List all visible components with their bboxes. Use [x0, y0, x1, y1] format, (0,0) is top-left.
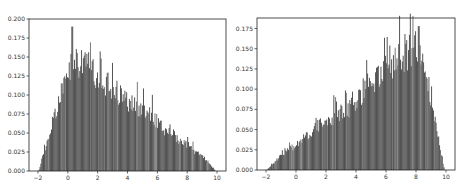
x-tick-label: 8 — [185, 174, 189, 181]
x-tick-label: −2 — [34, 174, 43, 181]
x-tick-label: 4 — [354, 173, 358, 180]
histogram-left-svg: −202468100.0000.0250.0500.0750.1000.1250… — [0, 0, 232, 188]
y-tick-label: 0.075 — [236, 105, 253, 112]
x-tick-label: −2 — [262, 173, 271, 180]
histogram-left: −202468100.0000.0250.0500.0750.1000.1250… — [0, 0, 232, 188]
x-tick-label: 8 — [414, 173, 418, 180]
histogram-bars — [39, 27, 216, 171]
y-tick-label: 0.075 — [8, 110, 25, 117]
histogram-right-svg: −202468100.0000.0250.0500.0750.1000.1250… — [232, 0, 464, 188]
x-tick-label: 4 — [126, 174, 130, 181]
x-tick-label: 2 — [96, 174, 100, 181]
y-tick-label: 0.000 — [236, 166, 253, 173]
y-tick-label: 0.175 — [236, 25, 253, 32]
y-tick-label: 0.175 — [8, 34, 25, 41]
y-tick-label: 0.200 — [8, 15, 25, 22]
x-tick-label: 6 — [384, 173, 388, 180]
y-tick-label: 0.100 — [8, 91, 25, 98]
y-tick-label: 0.125 — [8, 72, 25, 79]
y-tick-label: 0.025 — [8, 148, 25, 155]
x-tick-label: 2 — [324, 173, 328, 180]
x-tick-label: 10 — [442, 173, 450, 180]
y-tick-label: 0.100 — [236, 85, 253, 92]
y-tick-label: 0.050 — [236, 126, 253, 133]
y-tick-label: 0.025 — [236, 146, 253, 153]
y-tick-label: 0.150 — [236, 45, 253, 52]
x-tick-label: 6 — [155, 174, 159, 181]
y-tick-label: 0.125 — [236, 65, 253, 72]
x-tick-label: 0 — [294, 173, 298, 180]
x-tick-label: 10 — [213, 174, 221, 181]
y-tick-label: 0.000 — [8, 167, 25, 174]
x-tick-label: 0 — [66, 174, 70, 181]
histogram-bars — [267, 14, 445, 170]
y-tick-label: 0.150 — [8, 53, 25, 60]
histogram-right: −202468100.0000.0250.0500.0750.1000.1250… — [232, 0, 464, 188]
y-tick-label: 0.050 — [8, 129, 25, 136]
